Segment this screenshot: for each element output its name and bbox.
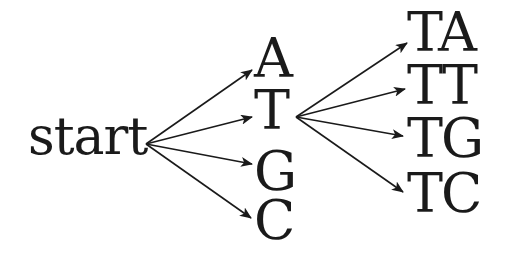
node-TC: TC [407, 167, 480, 221]
node-start: start [28, 110, 147, 162]
node-T: T [254, 84, 290, 138]
edge-start-A [146, 70, 252, 144]
node-TA: TA [407, 6, 475, 60]
node-TT: TT [407, 59, 476, 113]
edge-T-TG [296, 117, 403, 136]
node-A: A [254, 32, 293, 86]
edge-T-TT [296, 89, 405, 117]
edge-start-G [146, 144, 252, 164]
edge-start-T [146, 117, 252, 144]
edge-T-TA [296, 43, 407, 117]
node-C: C [254, 194, 295, 248]
edge-T-TC [296, 117, 403, 192]
node-TG: TG [407, 112, 482, 166]
edge-start-C [146, 144, 251, 218]
